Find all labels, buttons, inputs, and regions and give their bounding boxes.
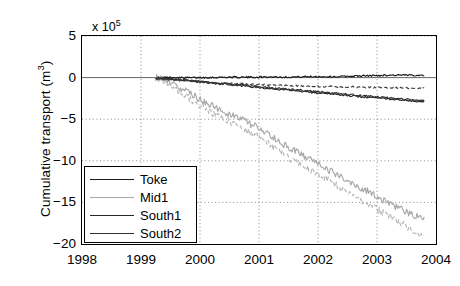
x-tick-label: 2000 bbox=[185, 253, 215, 267]
x-tick-label: 2003 bbox=[362, 253, 392, 267]
x-tick-label: 2002 bbox=[303, 253, 333, 267]
y-tick-label: 0 bbox=[32, 71, 76, 85]
y-axis-tick-labels: 50−5−10−15−20 bbox=[30, 0, 76, 286]
chart-figure: Cumulative transport (m3) x 105 50−5−10−… bbox=[0, 0, 460, 286]
legend-item-south1[interactable]: South1 bbox=[85, 206, 196, 224]
y-tick-label: −5 bbox=[32, 112, 76, 126]
y-axis-exponent-label: x 105 bbox=[92, 18, 121, 34]
y-tick-label: −15 bbox=[32, 196, 76, 210]
legend-item-mid1[interactable]: Mid1 bbox=[85, 188, 196, 206]
x-tick-label: 1999 bbox=[126, 253, 156, 267]
x-tick-label: 2004 bbox=[421, 253, 451, 267]
legend-swatch-south1 bbox=[90, 215, 134, 216]
legend-swatch-mid1 bbox=[90, 197, 134, 198]
x-tick-label: 2001 bbox=[244, 253, 274, 267]
y-tick-label: 5 bbox=[32, 29, 76, 43]
exponent-power: 5 bbox=[116, 18, 121, 28]
y-tick-label: −10 bbox=[32, 154, 76, 168]
legend-label: Toke bbox=[140, 173, 167, 186]
exponent-base: x 10 bbox=[92, 20, 116, 34]
legend-label: South2 bbox=[140, 227, 181, 240]
legend-label: South1 bbox=[140, 209, 181, 222]
legend-swatch-toke bbox=[90, 179, 134, 180]
x-tick-label: 1998 bbox=[67, 253, 97, 267]
legend-item-south2[interactable]: South2 bbox=[85, 224, 196, 242]
legend: TokeMid1South1South2 bbox=[84, 166, 197, 243]
legend-swatch-south2 bbox=[90, 233, 134, 234]
legend-item-toke[interactable]: Toke bbox=[85, 170, 196, 188]
x-axis-tick-labels: 1998199920002001200220032004 bbox=[0, 248, 460, 272]
legend-label: Mid1 bbox=[140, 191, 168, 204]
